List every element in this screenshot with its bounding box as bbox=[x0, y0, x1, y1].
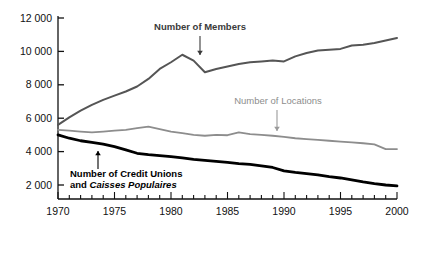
x-tick-label-1970: 1970 bbox=[46, 205, 70, 217]
x-tick-label-1990: 1990 bbox=[272, 205, 296, 217]
y-tick-label-8000: 8 000 bbox=[26, 78, 52, 90]
credit-unions-annotation-line2: and Caisses Populaires bbox=[70, 179, 177, 190]
x-tick-label-1985: 1985 bbox=[216, 205, 240, 217]
y-tick-label-12000: 12 000 bbox=[20, 12, 52, 24]
line-chart: 2 0004 0006 0008 00010 00012 000 1970197… bbox=[0, 0, 428, 254]
x-tick-label-1975: 1975 bbox=[103, 205, 127, 217]
y-tick-label-2000: 2 000 bbox=[26, 179, 52, 191]
x-tick-label-1995: 1995 bbox=[329, 205, 353, 217]
y-tick-label-10000: 10 000 bbox=[20, 45, 52, 57]
credit-unions-annotation-caisses: Caisses Populaires bbox=[90, 179, 177, 190]
credit-unions-annotation-line1: Number of Credit Unions bbox=[70, 168, 182, 179]
x-tick-label-2000: 2000 bbox=[385, 205, 409, 217]
locations-annotation-label: Number of Locations bbox=[234, 95, 322, 106]
chart-canvas: 2 0004 0006 0008 00010 00012 000 1970197… bbox=[0, 0, 428, 254]
x-tick-label-1980: 1980 bbox=[159, 205, 183, 217]
credit-unions-annotation-and: and bbox=[70, 179, 90, 190]
y-tick-label-4000: 4 000 bbox=[26, 145, 52, 157]
y-tick-label-6000: 6 000 bbox=[26, 112, 52, 124]
members-annotation-label: Number of Members bbox=[154, 21, 246, 32]
